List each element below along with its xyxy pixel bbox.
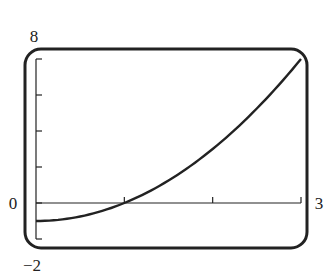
axes (36, 59, 301, 239)
y-max-label: 8 (30, 27, 39, 46)
x-max-label: 3 (315, 194, 324, 213)
y-min-label: −2 (23, 256, 41, 275)
function-curve (36, 59, 301, 221)
x-min-label: 0 (9, 194, 18, 213)
graph-canvas: 8 −2 0 3 (0, 0, 336, 279)
